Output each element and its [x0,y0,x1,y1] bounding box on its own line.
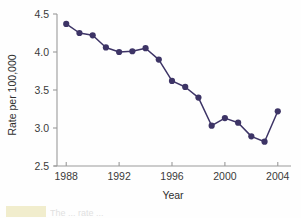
caption-strip: The ... rate ... [0,204,301,218]
caption-text: The ... rate ... [50,208,104,218]
data-point [248,133,254,139]
x-tick-label: 2004 [266,170,290,182]
y-axis-ticks [53,14,57,166]
data-point [235,120,241,126]
y-tick-label: 4.5 [34,8,49,20]
data-point [116,49,122,55]
y-tick-label: 3.0 [34,122,49,134]
data-point [169,78,175,84]
data-point [182,84,188,90]
data-point [209,123,215,129]
data-point [222,115,228,121]
line-chart: 2.53.03.54.04.5 19881992199620002004 Rat… [0,0,301,218]
data-point [156,57,162,63]
data-point [275,108,281,114]
data-point [90,32,96,38]
y-tick-label: 3.5 [34,84,49,96]
x-axis-title: Year [162,189,184,201]
data-point [261,139,267,145]
caption-highlight [6,206,46,217]
x-tick-label: 1988 [55,170,79,182]
data-point [103,44,109,50]
y-axis-title: Rate per 100,000 [6,54,18,135]
y-tick-label: 4.0 [34,46,49,58]
data-point [142,45,148,51]
figure-panel: 2.53.03.54.04.5 19881992199620002004 Rat… [0,0,301,218]
x-axis-tick-labels: 19881992199620002004 [55,170,290,182]
data-point [195,95,201,101]
x-tick-label: 1992 [107,170,131,182]
data-series-markers [63,21,281,145]
x-axis-ticks [66,162,278,166]
data-point [129,48,135,54]
y-axis-tick-labels: 2.53.03.54.04.5 [34,8,49,172]
data-point [63,21,69,27]
data-point [76,30,82,36]
x-tick-label: 2000 [213,170,237,182]
axes: 2.53.03.54.04.5 19881992199620002004 [34,8,291,182]
y-tick-label: 2.5 [34,160,49,172]
x-tick-label: 1996 [160,170,184,182]
